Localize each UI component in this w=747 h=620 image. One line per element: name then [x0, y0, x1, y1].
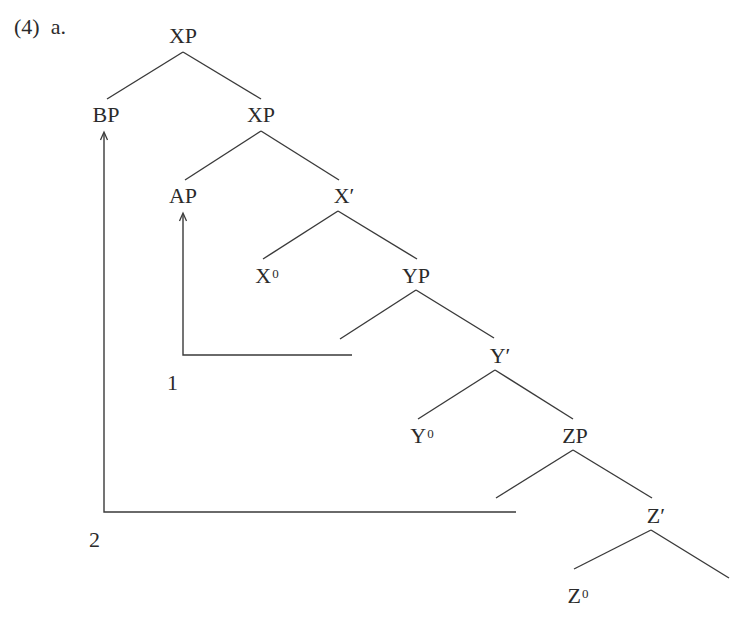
edge-zbar-z0 — [574, 530, 651, 569]
node-z-bar: Z′ — [647, 505, 665, 527]
edge-yp-ybar — [416, 290, 494, 338]
node-zp: ZP — [562, 425, 588, 447]
node-bp: BP — [93, 104, 120, 126]
edge-innerxp-ap — [185, 131, 261, 180]
edge-zp-spec — [496, 450, 573, 498]
edge-ybar-zp — [495, 370, 573, 419]
movement-label-2: 2 — [89, 529, 100, 551]
syntax-tree-figure: (4) a. XP BP XP — [0, 0, 747, 620]
edge-zbar-complement — [651, 530, 729, 578]
tree-branches — [0, 0, 747, 620]
edge-innerxp-xbar — [261, 131, 339, 180]
movement-label-1: 1 — [167, 372, 178, 394]
node-x0: X0 — [255, 265, 278, 287]
node-root-xp: XP — [169, 25, 197, 47]
node-y-bar: Y′ — [490, 345, 511, 367]
node-x-bar: X′ — [334, 185, 355, 207]
edge-xbar-yp — [338, 211, 417, 259]
movement-arrow-2 — [104, 133, 516, 512]
node-z0: Z0 — [568, 585, 589, 607]
node-y0: Y0 — [410, 425, 433, 447]
node-inner-xp: XP — [247, 104, 275, 126]
edge-xbar-x0 — [263, 211, 338, 259]
edge-root-innerxp — [183, 52, 261, 99]
edge-yp-spec — [340, 290, 416, 339]
edge-zp-zbar — [573, 450, 652, 498]
edge-ybar-y0 — [418, 370, 495, 419]
node-ap: AP — [169, 185, 197, 207]
edge-root-bp — [107, 52, 183, 99]
node-yp: YP — [402, 265, 430, 287]
